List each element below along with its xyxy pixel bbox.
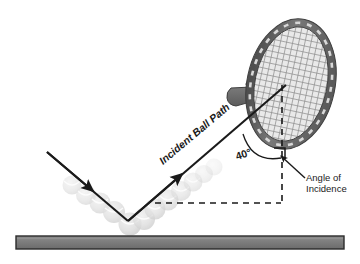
angle-of-incidence-label-line1: Angle of bbox=[306, 172, 341, 183]
ground-surface bbox=[16, 236, 344, 249]
tennis-racket bbox=[227, 10, 348, 158]
angle-of-incidence-label-line2: Incidence bbox=[306, 183, 347, 194]
ghost-ball-trail bbox=[63, 159, 223, 236]
angle-of-incidence-leader-arrow bbox=[281, 156, 305, 178]
physics-diagram: Incident Ball Path 40° Angle of Incidenc… bbox=[0, 0, 360, 264]
incident-path-label: Incident Ball Path bbox=[157, 101, 232, 167]
